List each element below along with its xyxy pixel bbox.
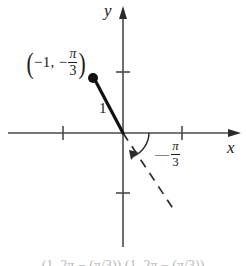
polar-plot-figure [0,0,246,266]
angle-label-fraction-numerator: π [171,140,179,153]
point-coordinate-label: ( −1, − π 3 ) [26,47,86,78]
angle-label-fraction-denominator: 3 [171,156,179,169]
y-axis-label: y [104,2,112,19]
radius-length-label: 1 [99,101,107,116]
point-label-fraction-numerator: π [68,47,77,61]
angle-measure-label: — π 3 [155,140,181,169]
bottom-cutoff-caption: (1, 2π − (π/3)) (1, 2π − (π/3)) [0,258,246,266]
angle-label-minus-sign: — [155,148,169,162]
x-axis-label: x [227,139,235,156]
point-label-fraction-denominator: 3 [68,64,77,78]
x-axis-arrowhead [228,129,241,137]
y-axis-arrowhead [119,6,127,19]
point-label-text: −1, − [34,55,67,70]
point-label-fraction: π 3 [68,47,77,78]
point-label-open-paren: ( [26,51,33,74]
point-label-close-paren: ) [79,51,86,74]
angle-label-fraction: π 3 [171,140,180,169]
plotted-point-dot [88,73,98,83]
